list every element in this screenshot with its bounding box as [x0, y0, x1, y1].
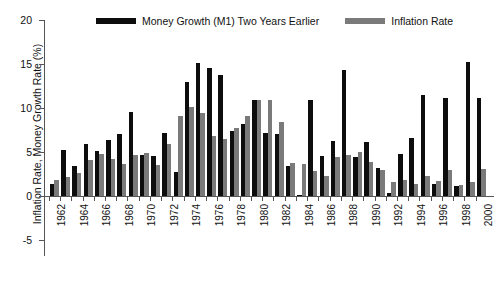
bar-inflation-1973 [178, 116, 182, 196]
bar-inflation-1974 [189, 107, 193, 196]
bar-inflation-1988 [346, 155, 350, 196]
bar-inflation-1992 [391, 182, 395, 196]
x-tick [285, 196, 286, 201]
x-tick-label: 1974 [191, 204, 202, 226]
x-tick [453, 196, 454, 201]
x-tick-label: 1984 [304, 204, 315, 226]
bar-inflation-1966 [99, 154, 103, 196]
bar-inflation-1984 [302, 164, 306, 196]
bar-money-growth-1999 [466, 62, 470, 196]
bar-inflation-1985 [313, 171, 317, 196]
bar-inflation-1982 [279, 122, 283, 196]
bar-inflation-1963 [66, 177, 70, 196]
bar-inflation-1964 [77, 173, 81, 196]
bar-inflation-1971 [156, 165, 160, 196]
x-tick [363, 196, 364, 201]
x-tick [94, 196, 95, 201]
x-tick-label: 1992 [393, 204, 404, 226]
y-tick-label: 20 [20, 14, 32, 26]
x-tick-label: 1970 [146, 204, 157, 226]
x-tick [318, 196, 319, 201]
x-tick [431, 196, 432, 201]
x-tick [229, 196, 230, 201]
x-tick [464, 196, 465, 201]
x-tick-label: 1986 [326, 204, 337, 226]
y-tick-label: 5 [26, 146, 32, 158]
x-tick [296, 196, 297, 201]
x-tick-label: 1962 [56, 204, 67, 226]
bar-inflation-1995 [425, 176, 429, 196]
bar-inflation-1969 [133, 155, 137, 196]
x-tick-label: 1982 [281, 204, 292, 226]
x-tick [195, 196, 196, 201]
x-tick [273, 196, 274, 201]
y-tick-label: 10 [20, 102, 32, 114]
x-tick [375, 196, 376, 201]
x-tick-label: 1980 [259, 204, 270, 226]
y-tick: 10 [39, 108, 45, 109]
y-tick-label: -5 [23, 234, 32, 246]
bar-inflation-1970 [144, 153, 148, 196]
bar-inflation-1977 [223, 139, 227, 196]
bar-inflation-1965 [88, 160, 92, 196]
bar-inflation-1968 [122, 164, 126, 196]
x-tick [307, 196, 308, 201]
x-tick [442, 196, 443, 201]
y-tick: 15 [39, 64, 45, 65]
bar-inflation-1980 [257, 100, 261, 196]
x-tick [60, 196, 61, 201]
x-tick [251, 196, 252, 201]
x-tick [476, 196, 477, 201]
x-tick [161, 196, 162, 201]
x-tick [352, 196, 353, 201]
x-tick [386, 196, 387, 201]
x-tick-label: 2000 [483, 204, 494, 226]
bar-inflation-1981 [268, 100, 272, 196]
bar-inflation-1996 [436, 181, 440, 196]
y-tick-label: 0 [26, 190, 32, 202]
y-axis-label: Inflation Rate, Money Growth Rate (%) [31, 9, 43, 259]
bar-inflation-1979 [245, 116, 249, 196]
x-tick-label: 1998 [461, 204, 472, 226]
x-tick [330, 196, 331, 201]
y-tick: 0 [39, 196, 45, 197]
x-tick-label: 1968 [124, 204, 135, 226]
x-tick [217, 196, 218, 201]
x-tick [127, 196, 128, 201]
y-tick: -5 [39, 240, 45, 241]
x-tick [408, 196, 409, 201]
bar-inflation-1978 [234, 128, 238, 196]
x-tick [184, 196, 185, 201]
x-tick-label: 1972 [169, 204, 180, 226]
x-tick [71, 196, 72, 201]
bar-inflation-1991 [380, 170, 384, 196]
x-tick [419, 196, 420, 201]
x-tick-label: 1988 [348, 204, 359, 226]
x-tick [172, 196, 173, 201]
x-tick [397, 196, 398, 201]
x-tick-label: 1964 [79, 204, 90, 226]
x-tick [116, 196, 117, 201]
bar-inflation-1989 [358, 152, 362, 196]
bar-inflation-1994 [414, 184, 418, 196]
y-tick-label: 15 [20, 58, 32, 70]
x-tick [139, 196, 140, 201]
y-tick: 5 [39, 152, 45, 153]
x-tick-label: 1978 [236, 204, 247, 226]
bar-inflation-2000 [481, 169, 485, 196]
bar-inflation-1997 [448, 170, 452, 196]
x-tick [240, 196, 241, 201]
bar-inflation-1990 [369, 162, 373, 196]
x-tick [150, 196, 151, 201]
x-tick [341, 196, 342, 201]
y-axis-line [44, 20, 45, 256]
x-tick [49, 196, 50, 201]
bar-inflation-1993 [403, 180, 407, 196]
chart-figure: Money Growth (M1) Two Years Earlier Infl… [0, 0, 502, 283]
x-tick-label: 1994 [416, 204, 427, 226]
x-tick [83, 196, 84, 201]
plot-area: -505101520 19621964196619681970197219741… [44, 20, 494, 256]
x-tick-label: 1996 [438, 204, 449, 226]
x-tick [206, 196, 207, 201]
bar-inflation-1962 [54, 180, 58, 196]
